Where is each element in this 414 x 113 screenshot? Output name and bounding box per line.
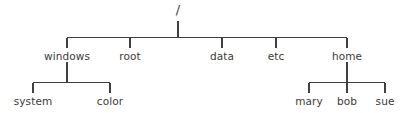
node-sue: sue (376, 95, 395, 107)
node-mary: mary (295, 95, 323, 107)
node-root: / (176, 4, 180, 16)
node-home: home (332, 50, 362, 62)
node-bob: bob (337, 95, 357, 107)
node-system: system (14, 95, 53, 107)
node-root-dir: root (119, 50, 140, 62)
node-windows: windows (44, 50, 90, 62)
node-etc: etc (268, 50, 285, 62)
filesystem-tree-diagram: / windows root data etc home system colo… (0, 0, 414, 113)
node-data: data (210, 50, 234, 62)
node-color: color (97, 95, 123, 107)
